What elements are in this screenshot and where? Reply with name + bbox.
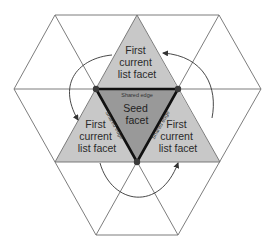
shared-edge-label-top: Shared edge <box>121 92 153 98</box>
seed-facet-label: Seed facet <box>123 102 150 126</box>
vertex-dot-bottom <box>134 159 140 165</box>
facet-diagram: First current list facet First current l… <box>0 0 274 245</box>
vertex-dot-left <box>93 86 99 92</box>
vertex-dot-right <box>175 86 181 92</box>
diagram-svg: First current list facet First current l… <box>0 0 274 245</box>
arrow-left-to-right <box>100 163 178 197</box>
